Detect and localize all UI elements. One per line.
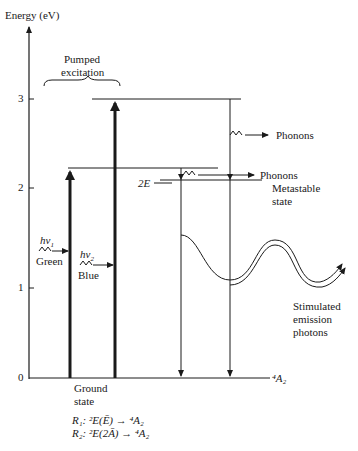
phonons-upper-label: Phonons (276, 129, 314, 141)
transition-r1: R₁: ²E(Ē) → ⁴A₂ (72, 414, 144, 426)
stimulated-wave-incoming (181, 235, 342, 282)
energy-level-diagram (0, 0, 358, 451)
axis-label: Energy (eV) (5, 9, 59, 21)
ground-state-label-1: Ground (74, 382, 108, 394)
hv1-label: hν1 (40, 234, 54, 251)
stimulated-wave-outgoing (230, 245, 345, 287)
phonons-lower-label: Phonons (260, 169, 298, 181)
ground-state-label-2: state (74, 395, 94, 407)
hv2-label: hν2 (80, 248, 94, 265)
stimulated-label-1: Stimulated (293, 300, 341, 312)
pumped-excitation-label-1: Pumped (64, 53, 100, 65)
metastable-label-1: Metastable (272, 182, 320, 194)
stimulated-label-2: emission (293, 313, 332, 325)
tick-0: 0 (18, 372, 24, 383)
y-axis (29, 27, 34, 379)
blue-label: Blue (78, 269, 99, 281)
ground-level-label: ⁴A₂ (272, 372, 286, 384)
tick-3: 3 (18, 93, 24, 104)
phonon-wave-lower (183, 171, 195, 175)
tick-1: 1 (18, 282, 24, 293)
stimulated-label-3: photons (293, 326, 328, 338)
transition-r2: R₂: ²E(2Ā) → ⁴A₂ (72, 427, 149, 439)
pumped-excitation-label-2: excitation (61, 66, 104, 78)
level-2E-label: 2E (138, 177, 150, 189)
tick-2: 2 (18, 182, 24, 193)
phonon-wave-upper (230, 131, 242, 135)
metastable-label-2: state (272, 195, 292, 207)
green-label: Green (36, 255, 63, 267)
